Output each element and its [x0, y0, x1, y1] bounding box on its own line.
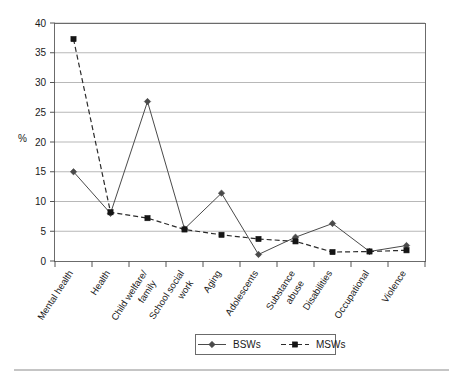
x-axis-category-labels: Mental healthHealthChild welfare/familyS… — [35, 268, 408, 323]
y-tick-label: 0 — [40, 256, 46, 267]
x-tick-label: Health — [88, 268, 112, 297]
x-tick-label: Aging — [201, 268, 223, 294]
y-tick-label: 15 — [35, 166, 47, 177]
y-tick-label: 30 — [35, 77, 47, 88]
data-point — [145, 216, 150, 221]
y-tick-label: 20 — [35, 137, 47, 148]
y-tick-label: 35 — [35, 47, 47, 58]
data-point — [71, 36, 76, 41]
y-axis-ticks: 0510152025303540 — [35, 18, 55, 267]
y-tick-label: 5 — [40, 226, 46, 237]
data-point — [144, 98, 150, 104]
plot-frame — [55, 24, 426, 262]
x-tick-label: Mental health — [35, 268, 75, 322]
legend-label: BSWs — [233, 339, 261, 350]
chart-legend: BSWsMSWs — [196, 335, 346, 355]
x-tick-label: Disabilities — [300, 268, 334, 312]
chart-figure: % 0510152025303540 Mental healthHealthCh… — [0, 0, 463, 385]
y-axis-title: % — [18, 133, 27, 144]
data-point — [256, 236, 261, 241]
data-point — [108, 210, 113, 215]
line-chart: % 0510152025303540 Mental healthHealthCh… — [0, 0, 463, 385]
data-point — [404, 248, 409, 253]
legend-label: MSWs — [316, 339, 345, 350]
data-series-layer — [70, 36, 409, 257]
x-tick-label: Violence — [379, 268, 408, 304]
y-tick-label: 40 — [35, 18, 47, 29]
series-line-msws — [74, 39, 407, 252]
data-point — [367, 249, 372, 254]
data-point — [293, 239, 298, 244]
x-tick-label: Occupational — [332, 268, 371, 320]
legend-marker-msws — [292, 342, 297, 347]
y-tick-label: 10 — [35, 196, 47, 207]
data-point — [219, 232, 224, 237]
data-point — [330, 249, 335, 254]
gridlines — [55, 23, 425, 231]
data-point — [255, 251, 261, 257]
y-tick-label: 25 — [35, 107, 47, 118]
data-point — [182, 227, 187, 232]
x-tick-label: Adolescents — [223, 268, 261, 318]
